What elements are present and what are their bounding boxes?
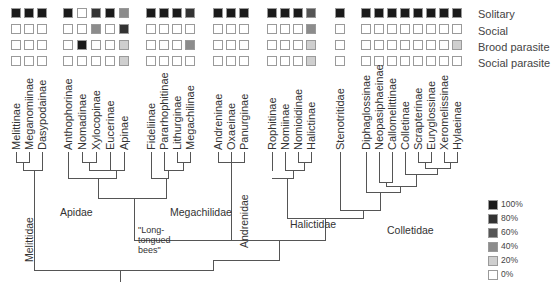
heatmap-cell xyxy=(185,8,195,18)
taxon-label: Melittinae xyxy=(10,103,22,150)
legend-swatch-100 xyxy=(488,200,498,210)
clade-label-colletidae: Colletidae xyxy=(387,224,434,236)
heatmap-cell xyxy=(37,56,47,66)
heatmap-cell xyxy=(91,24,101,34)
heatmap-cell xyxy=(63,56,73,66)
heatmap-cell xyxy=(335,24,345,34)
heatmap-cell xyxy=(91,40,101,50)
heatmap-cell xyxy=(306,24,316,34)
legend-label-80: 80% xyxy=(501,213,518,223)
heatmap-cell xyxy=(226,56,236,66)
taxon-label: Eucerinae xyxy=(104,100,116,150)
heatmap-cell xyxy=(400,40,410,50)
heatmap-cell xyxy=(226,40,236,50)
taxon-label: Colletinae xyxy=(399,101,411,150)
heatmap-cell xyxy=(293,40,303,50)
heatmap-cell xyxy=(11,24,21,34)
taxon-label: Neopasiphaeinae xyxy=(373,64,385,150)
legend-swatch-0 xyxy=(488,270,498,280)
heatmap-cell xyxy=(24,40,34,50)
heatmap-cell xyxy=(293,8,303,18)
taxon-label: Panurginae xyxy=(238,94,250,150)
heatmap-cell xyxy=(267,40,277,50)
heatmap-cell xyxy=(159,8,169,18)
taxon-label: Xylocopinae xyxy=(90,90,102,150)
legend-label-100: 100% xyxy=(501,199,523,209)
heatmap-cell xyxy=(105,24,115,34)
heatmap-cell xyxy=(37,24,47,34)
legend-label-40: 40% xyxy=(501,241,518,251)
heatmap-cell xyxy=(146,8,156,18)
heatmap-cell xyxy=(374,40,384,50)
heatmap-cell xyxy=(306,40,316,50)
trait-label-social: Social xyxy=(478,25,508,37)
heatmap-cell xyxy=(24,8,34,18)
legend-swatch-80 xyxy=(488,214,498,224)
heatmap-cell xyxy=(335,56,345,66)
heatmap-cell xyxy=(172,56,182,66)
taxon-label: Rophitinae xyxy=(266,97,278,150)
heatmap-cell xyxy=(63,40,73,50)
legend-swatch-20 xyxy=(488,256,498,266)
heatmap-cell xyxy=(213,40,223,50)
heatmap-cell xyxy=(119,8,129,18)
taxon-label: Scrapterinae xyxy=(412,88,424,150)
heatmap-cell xyxy=(146,24,156,34)
trait-label-brood-parasite: Brood parasite xyxy=(478,41,550,53)
heatmap-cell xyxy=(335,40,345,50)
heatmap-cell xyxy=(239,24,249,34)
taxon-label: Diphaglossinae xyxy=(360,75,372,150)
heatmap-cell xyxy=(146,40,156,50)
taxon-label: Xeromelissinae xyxy=(438,75,450,150)
heatmap-cell xyxy=(172,24,182,34)
heatmap-cell xyxy=(239,56,249,66)
heatmap-cell xyxy=(239,8,249,18)
heatmap-cell xyxy=(400,56,410,66)
heatmap-cell xyxy=(306,8,316,18)
heatmap-cell xyxy=(146,56,156,66)
heatmap-cell xyxy=(226,24,236,34)
heatmap-cell xyxy=(280,8,290,18)
taxon-label: Nomadinae xyxy=(76,94,88,150)
legend-swatch-60 xyxy=(488,228,498,238)
heatmap-cell xyxy=(280,56,290,66)
heatmap-cell xyxy=(280,24,290,34)
heatmap-cell xyxy=(91,8,101,18)
clade-label-long-tongued-bees: "Long- tongued bees" xyxy=(138,225,171,255)
taxon-label: Pararhophitinae xyxy=(158,72,170,150)
heatmap-cell xyxy=(267,56,277,66)
taxon-label: Andreninae xyxy=(212,94,224,150)
heatmap-cell xyxy=(387,40,397,50)
taxon-label: Lithurginae xyxy=(171,96,183,150)
heatmap-cell xyxy=(413,56,423,66)
heatmap-cell xyxy=(77,8,87,18)
heatmap-cell xyxy=(426,8,436,18)
heatmap-cell xyxy=(77,40,87,50)
legend-label-0: 0% xyxy=(501,269,513,279)
heatmap-cell xyxy=(361,8,371,18)
heatmap-cell xyxy=(185,56,195,66)
heatmap-cell xyxy=(119,40,129,50)
taxon-label: Dasypodainae xyxy=(36,80,48,150)
taxon-label: Stenotritidae xyxy=(334,88,346,150)
heatmap-cell xyxy=(387,24,397,34)
heatmap-cell xyxy=(452,24,462,34)
heatmap-cell xyxy=(400,8,410,18)
heatmap-cell xyxy=(452,40,462,50)
heatmap-cell xyxy=(63,8,73,18)
trait-label-social-parasite: Social parasite xyxy=(478,57,550,69)
heatmap-cell xyxy=(426,40,436,50)
heatmap-cell xyxy=(361,24,371,34)
heatmap-cell xyxy=(452,8,462,18)
heatmap-cell xyxy=(387,56,397,66)
heatmap-cell xyxy=(426,56,436,66)
heatmap-cell xyxy=(105,56,115,66)
heatmap-cell xyxy=(37,8,47,18)
heatmap-cell xyxy=(413,24,423,34)
heatmap-cell xyxy=(361,40,371,50)
heatmap-cell xyxy=(37,40,47,50)
heatmap-cell xyxy=(24,24,34,34)
heatmap-cell xyxy=(213,24,223,34)
trait-label-solitary: Solitary xyxy=(478,8,515,20)
heatmap-cell xyxy=(159,56,169,66)
